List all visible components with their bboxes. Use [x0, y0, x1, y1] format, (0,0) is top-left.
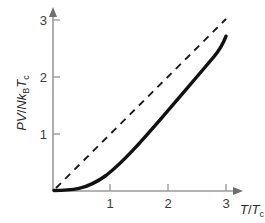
- y-tick-label-2: 2: [40, 70, 47, 85]
- x-title-t2-subscript: c: [260, 209, 265, 219]
- y-title-t-subscript: c: [21, 75, 31, 80]
- y-title-p: P: [14, 122, 29, 131]
- y-axis-title: PV/NkBTc: [14, 75, 31, 131]
- y-tick-label-1: 1: [40, 127, 47, 142]
- figure-container: 1 2 3 1 2 3 PV/NkBTc T/Tc: [0, 0, 265, 223]
- x-tick-label-3: 3: [222, 196, 229, 211]
- y-tick-label-3: 3: [40, 13, 47, 28]
- x-tick-label-1: 1: [106, 196, 113, 211]
- bose-gas-equation-of-state-chart: 1 2 3 1 2 3 PV/NkBTc T/Tc: [0, 0, 265, 223]
- svg-text:PV/NkBTc: PV/NkBTc: [14, 75, 31, 131]
- x-tick-label-2: 2: [164, 196, 171, 211]
